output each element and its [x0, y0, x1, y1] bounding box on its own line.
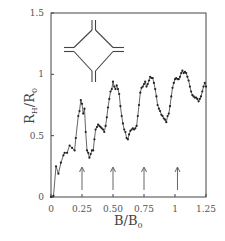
data-point [80, 99, 82, 101]
data-point [138, 104, 140, 106]
data-point [134, 127, 136, 129]
data-point [75, 137, 77, 139]
data-point [145, 86, 147, 88]
data-point [168, 113, 170, 115]
data-point [96, 126, 98, 128]
data-point [157, 104, 159, 106]
inset-cross-junction-diagram [64, 20, 124, 82]
data-point [62, 154, 64, 156]
data-point [179, 76, 181, 78]
data-point [86, 149, 88, 151]
axis-ticks [51, 13, 206, 197]
data-point [57, 173, 59, 175]
data-point [144, 81, 146, 83]
data-point [108, 98, 110, 100]
data-point [105, 125, 107, 127]
data-point [124, 131, 126, 133]
plot-frame [51, 13, 206, 197]
data-point [198, 100, 200, 102]
data-point [167, 115, 169, 117]
data-point [190, 90, 192, 92]
data-point [201, 90, 203, 92]
data-point [112, 81, 114, 83]
data-point [188, 79, 190, 81]
data-point [85, 131, 87, 133]
data-point [162, 115, 164, 117]
data-point [82, 113, 84, 115]
chart: 00.250.500.7511.2500.511.5 B/B0 RH/R0 [0, 0, 225, 241]
data-point [173, 82, 175, 84]
data-point [159, 110, 161, 112]
data-point [147, 83, 149, 85]
data-point [81, 103, 83, 105]
data-point [87, 152, 89, 154]
x-axis-title: B/B0 [114, 213, 143, 230]
data-point [148, 79, 150, 81]
data-point [50, 196, 52, 198]
data-point [52, 195, 54, 197]
data-point [158, 108, 160, 110]
data-point [180, 72, 182, 74]
data-point [92, 149, 94, 151]
data-point [139, 92, 141, 94]
data-point [165, 121, 167, 123]
x-tick-label: 0.25 [72, 204, 92, 214]
data-point [189, 86, 191, 88]
data-point [106, 116, 108, 118]
y-tick-label: 0 [38, 192, 44, 202]
y-tick-label: 0.5 [30, 131, 45, 141]
data-point [88, 157, 90, 159]
data-point [202, 86, 204, 88]
data-point [114, 88, 116, 90]
data-point [119, 105, 121, 107]
data-point [169, 105, 171, 107]
data-point [196, 98, 198, 100]
data-point [122, 122, 124, 124]
data-point [113, 86, 115, 88]
data-point [123, 128, 125, 130]
data-point [90, 153, 92, 155]
data-point [55, 165, 57, 167]
data-points [50, 70, 207, 199]
x-tick-label: 1.25 [196, 204, 216, 214]
data-point [77, 115, 79, 117]
data-point [142, 86, 144, 88]
data-point [66, 152, 68, 154]
data-point [116, 84, 118, 86]
data-point [127, 138, 129, 140]
data-point [199, 98, 201, 100]
data-point [200, 95, 202, 97]
data-point [95, 128, 97, 130]
data-point [137, 115, 139, 117]
data-point [178, 78, 180, 80]
data-point [111, 88, 113, 90]
axis-tick-labels: 00.250.500.7511.2500.511.5 [30, 8, 217, 214]
data-point [171, 87, 173, 89]
data-point [121, 115, 123, 117]
data-point [102, 128, 104, 130]
data-point [64, 152, 66, 154]
data-point [152, 77, 154, 79]
data-point [60, 162, 62, 164]
y-axis-title: RH/R0 [22, 88, 39, 124]
data-point [117, 88, 119, 90]
data-point [164, 119, 166, 121]
data-point [107, 106, 109, 108]
data-point [153, 82, 155, 84]
data-point [136, 125, 138, 127]
x-tick-label: 1 [172, 204, 178, 214]
y-tick-label: 1.5 [30, 8, 45, 18]
data-point [204, 82, 206, 84]
data-point [74, 149, 76, 151]
data-point [83, 108, 85, 110]
data-point [143, 83, 145, 85]
data-point [181, 70, 183, 72]
data-point [93, 138, 95, 140]
x-tick-label: 0 [48, 204, 54, 214]
data-point [118, 93, 120, 95]
data-point [154, 88, 156, 90]
y-tick-label: 1 [38, 69, 44, 79]
data-point [155, 95, 157, 97]
data-point [186, 76, 188, 78]
data-point [185, 72, 187, 74]
